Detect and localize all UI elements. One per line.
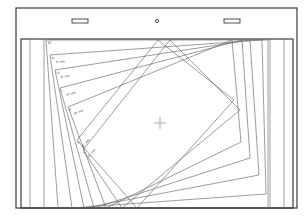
rotated-sheet: 710° mm [60,40,250,208]
right-slot-marker [224,19,240,23]
rotation-diagram: 13115° mm158° mm710° mm920° mm325° mm530… [0,0,307,224]
rotated-sheets: 13115° mm158° mm710° mm920° mm325° mm530… [46,40,268,208]
sheet-outline [68,40,241,208]
rotated-sheet: 325° mm [76,40,234,208]
rotated-sheet: 920° mm [68,40,241,208]
sheet-number-label: 9 [68,107,71,111]
outer-frame [16,8,297,208]
sheet-outline [60,40,250,208]
sheet-number-label: 13 [48,41,52,45]
sheet-angle-label: 8° mm [61,74,71,79]
sheet-angle-label: 5° mm [56,59,65,64]
sheet-number-label: 11 [51,56,55,60]
center-crosshair-icon [154,117,166,129]
sheet-outline [77,40,234,208]
inner-panel [21,39,293,208]
sheet-number-label: 7 [61,89,64,93]
center-hole-marker [155,19,158,22]
sheet-angle-label: 20° mm [73,108,85,116]
left-slot-marker [72,19,88,23]
sheet-angle-label: 10° mm [65,90,77,97]
